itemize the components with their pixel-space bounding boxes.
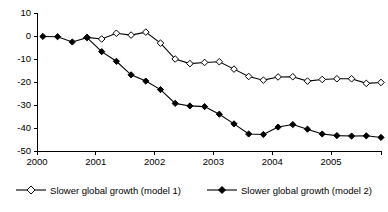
chart-legend: Slower global growth (model 1) Slower gl… [0,184,388,196]
y-tick-group: 100-10-20-30-40-50 [17,7,37,156]
data-point-marker [275,74,282,81]
data-point-marker [378,79,385,86]
data-point-marker [201,59,208,66]
chart-container: 100-10-20-30-40-50 200020012002200320042… [0,0,388,212]
data-point-marker [113,30,120,37]
legend-label-model-2: Slower global growth (model 2) [241,185,372,196]
data-point-marker [304,78,311,85]
data-point-marker [201,104,207,110]
data-point-marker [216,111,222,117]
line-chart-plot: 100-10-20-30-40-50 200020012002200320042… [0,0,388,212]
x-tick-label: 2002 [144,156,165,167]
series-group [40,29,385,141]
data-point-marker [98,36,105,43]
legend-label-model-1: Slower global growth (model 1) [50,185,181,196]
data-point-marker [378,134,384,140]
filled-diamond-marker-icon [207,184,237,196]
data-point-marker [143,78,149,84]
data-point-marker [363,133,369,139]
legend-entry-model-1: Slower global growth (model 1) [16,184,181,196]
data-point-marker [260,131,266,137]
data-point-marker [54,34,60,40]
data-point-marker [246,131,252,137]
data-point-marker [348,133,354,139]
y-tick-label: 10 [20,7,31,18]
y-tick-label: 0 [26,30,31,41]
x-tick-group: 200020012002200320042005 [26,151,381,167]
y-axis-group: 100-10-20-30-40-50 [17,7,37,156]
data-point-marker [245,73,252,80]
x-tick-label: 2005 [320,156,341,167]
data-point-marker [319,76,326,83]
data-point-marker [334,75,341,82]
series-line-2 [43,36,381,137]
data-point-marker [216,58,223,65]
y-tick-label: -20 [17,76,31,87]
series-2 [40,33,384,140]
open-diamond-marker-icon [16,184,46,196]
x-axis-group: 200020012002200320042005 [26,151,381,167]
data-point-marker [304,126,310,132]
data-point-marker [348,75,355,82]
y-tick-label: -40 [17,122,31,133]
x-tick-label: 2004 [262,156,283,167]
data-point-marker [319,131,325,137]
data-point-marker [260,77,267,84]
data-point-marker [231,121,237,127]
data-point-marker [231,66,238,73]
x-tick-label: 2000 [26,156,47,167]
x-tick-label: 2001 [85,156,106,167]
data-point-marker [69,39,75,45]
data-point-marker [334,132,340,138]
data-point-marker [275,124,281,130]
data-point-marker [187,60,194,67]
y-tick-label: -50 [17,145,31,156]
data-point-marker [363,80,370,87]
series-1 [84,29,385,87]
y-tick-label: -30 [17,99,31,110]
data-point-marker [187,103,193,109]
data-point-marker [289,73,296,80]
y-tick-label: -10 [17,53,31,64]
data-point-marker [128,32,135,39]
legend-entry-model-2: Slower global growth (model 2) [207,184,372,196]
data-point-marker [290,121,296,127]
x-tick-label: 2003 [203,156,224,167]
data-point-marker [40,33,46,39]
